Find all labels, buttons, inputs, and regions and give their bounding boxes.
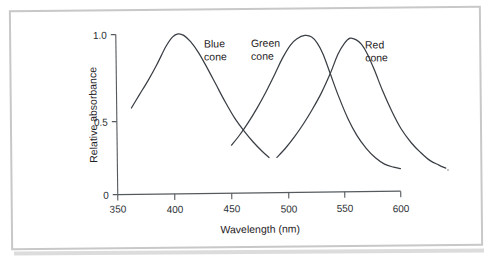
curve-blue-cone <box>131 33 269 160</box>
x-tick-label-550: 550 <box>337 203 354 214</box>
blue-cone-label-line2: cone <box>204 50 227 62</box>
y-tick-label-0: 0 <box>103 190 109 201</box>
x-tick-label-450: 450 <box>224 203 241 214</box>
x-tick-label-350: 350 <box>110 203 127 214</box>
x-tick-label-500: 500 <box>281 203 298 214</box>
red-cone-annotation: Red cone <box>365 38 388 63</box>
blue-cone-annotation: Blue cone <box>204 37 227 62</box>
y-axis-line <box>116 35 118 195</box>
y-tick-label-1.0: 1.0 <box>93 30 107 41</box>
x-axis-line <box>118 191 401 194</box>
x-tick-label-400: 400 <box>167 204 184 215</box>
curve-red-cone <box>275 37 445 170</box>
x-axis-title: Wavelength (nm) <box>220 222 300 235</box>
x-tick-label-600: 600 <box>393 203 410 214</box>
red-cone-label-line2: cone <box>365 51 388 63</box>
y-axis-title: Relative absorbance <box>86 67 99 163</box>
scanned-figure-page: 1.0 0.5 0 350 400 450 500 550 600 Wavele… <box>0 0 495 266</box>
red-cone-label-line1: Red <box>365 38 385 50</box>
blue-cone-label-line1: Blue <box>204 37 225 49</box>
green-cone-annotation: Green cone <box>251 37 281 62</box>
green-cone-label-line2: cone <box>251 50 274 62</box>
absorbance-chart: 1.0 0.5 0 350 400 450 500 550 600 Wavele… <box>0 0 495 266</box>
chart-svg: 1.0 0.5 0 350 400 450 500 550 600 Wavele… <box>0 0 495 266</box>
green-cone-label-line1: Green <box>251 37 280 49</box>
